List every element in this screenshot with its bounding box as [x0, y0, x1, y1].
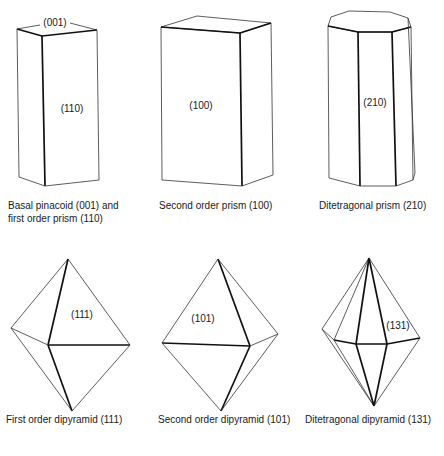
- figure-ditetragonal-prism: (210): [328, 11, 415, 186]
- figure-ditetragonal-dipyramid: (131): [322, 258, 420, 406]
- caption-line: Ditetragonal dipyramid (131): [305, 413, 431, 426]
- caption-line: First order dipyramid (111): [6, 413, 122, 426]
- caption-second-order-dipyramid: Second order dipyramid (101): [158, 413, 290, 426]
- face-label-001: (001): [43, 17, 66, 28]
- face-label-110: (110): [61, 103, 84, 114]
- caption-line: Second order prism (100): [159, 199, 272, 212]
- crystal-forms-diagram: (001) (110) (100) (210) (111): [0, 0, 444, 456]
- caption-line: Basal pinacoid (001) and: [8, 199, 119, 212]
- figure-first-order-dipyramid: (111): [11, 259, 130, 411]
- caption-ditetragonal-prism: Ditetragonal prism (210): [319, 199, 426, 212]
- face-label-101: (101): [191, 313, 214, 324]
- figure-basal-pinacoid-prism: (001) (110): [17, 17, 99, 186]
- face-label-131: (131): [386, 320, 409, 331]
- face-label-210: (210): [363, 97, 386, 108]
- face-label-100: (100): [189, 100, 212, 111]
- caption-line: Ditetragonal prism (210): [319, 199, 426, 212]
- caption-ditetragonal-dipyramid: Ditetragonal dipyramid (131): [305, 413, 431, 426]
- face-label-111: (111): [71, 309, 93, 320]
- caption-line: first order prism (110): [8, 212, 119, 225]
- caption-basal-pinacoid-prism: Basal pinacoid (001) and first order pri…: [8, 199, 119, 225]
- figure-second-order-prism: (100): [161, 16, 273, 186]
- caption-first-order-dipyramid: First order dipyramid (111): [6, 413, 122, 426]
- figure-second-order-dipyramid: (101): [162, 259, 278, 411]
- caption-line: Second order dipyramid (101): [158, 413, 290, 426]
- caption-second-order-prism: Second order prism (100): [159, 199, 272, 212]
